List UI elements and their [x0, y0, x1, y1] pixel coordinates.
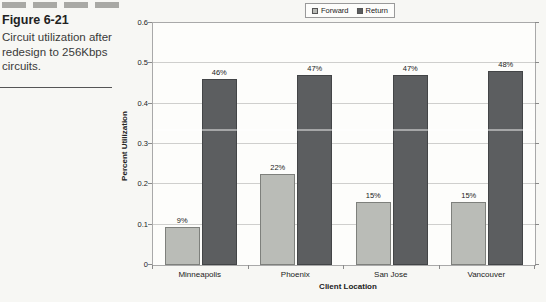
bar-return-minneapolis [202, 79, 237, 265]
y-tick-mark-right [535, 22, 539, 23]
legend-item-return: Return [357, 6, 389, 15]
bar-return-vancouver [488, 71, 523, 265]
x-boundary-tick [152, 265, 153, 269]
bar-value-label: 15% [366, 191, 381, 200]
bar-return-phoenix [297, 75, 332, 265]
y-tick-mark-right [535, 264, 539, 265]
bar-chart: ForwardReturn 9%46%22%47%15%47%15%48% Pe… [0, 0, 546, 302]
legend-label-return: Return [366, 6, 389, 15]
y-tick-label-0.6: 0.6 [118, 18, 148, 27]
x-category-label-vancouver: Vancouver [467, 270, 505, 279]
scan-artifact-line [153, 129, 535, 131]
bar-value-label: 48% [498, 60, 513, 69]
y-tick-mark-right [535, 143, 539, 144]
bar-value-label: 9% [177, 216, 188, 225]
bar-return-san-jose [393, 75, 428, 265]
y-tick-mark-left [148, 143, 152, 144]
y-tick-label-0.2: 0.2 [118, 179, 148, 188]
bar-forward-phoenix [260, 174, 295, 265]
scanned-textbook-figure: Figure 6-21 Circuit utilization after re… [0, 0, 546, 302]
y-tick-mark-left [148, 62, 152, 63]
y-tick-label-0.1: 0.1 [118, 220, 148, 229]
y-tick-label-0.3: 0.3 [118, 139, 148, 148]
x-boundary-tick [343, 265, 344, 269]
gridline-0.5 [153, 62, 535, 63]
y-tick-mark-right [535, 103, 539, 104]
chart-legend: ForwardReturn [305, 3, 395, 18]
y-tick-mark-right [535, 224, 539, 225]
legend-swatch-forward [312, 8, 318, 14]
x-boundary-tick [439, 265, 440, 269]
y-tick-mark-left [148, 224, 152, 225]
x-axis-title: Client Location [319, 282, 377, 291]
y-tick-label-0.4: 0.4 [118, 99, 148, 108]
bar-forward-minneapolis [165, 227, 200, 265]
bar-value-label: 22% [270, 163, 285, 172]
bar-value-label: 46% [212, 68, 227, 77]
bar-value-label: 15% [461, 191, 476, 200]
chart-plot-area: 9%46%22%47%15%47%15%48% [152, 22, 536, 266]
x-category-label-san-jose: San Jose [374, 270, 407, 279]
y-tick-label-0.5: 0.5 [118, 58, 148, 67]
x-boundary-tick [534, 265, 535, 269]
bar-forward-vancouver [451, 202, 486, 265]
y-tick-mark-left [148, 22, 152, 23]
legend-item-forward: Forward [312, 6, 349, 15]
y-tick-mark-left [148, 183, 152, 184]
legend-swatch-return [357, 8, 363, 14]
y-tick-label-0: 0 [118, 260, 148, 269]
bar-forward-san-jose [356, 202, 391, 265]
legend-label-forward: Forward [321, 6, 349, 15]
x-boundary-tick [248, 265, 249, 269]
x-category-label-phoenix: Phoenix [281, 270, 310, 279]
bar-value-label: 47% [403, 64, 418, 73]
x-category-label-minneapolis: Minneapolis [178, 270, 221, 279]
y-tick-mark-right [535, 183, 539, 184]
bar-value-label: 47% [307, 64, 322, 73]
y-tick-mark-left [148, 103, 152, 104]
y-tick-mark-right [535, 62, 539, 63]
